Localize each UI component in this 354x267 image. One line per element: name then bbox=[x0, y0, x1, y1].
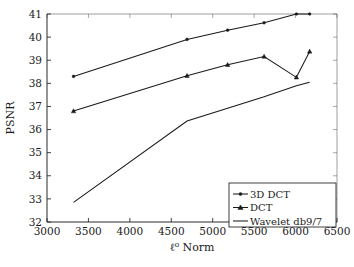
x-tick-label: 4000 bbox=[116, 225, 143, 237]
series-line bbox=[74, 14, 310, 76]
data-point-marker bbox=[308, 13, 311, 16]
y-tick-label: 34 bbox=[29, 169, 43, 181]
data-point-marker bbox=[226, 29, 229, 32]
x-tick-label: 5000 bbox=[199, 225, 226, 237]
y-tick-label: 39 bbox=[29, 54, 42, 66]
data-point-marker bbox=[186, 38, 189, 41]
y-tick-label: 37 bbox=[29, 100, 42, 112]
y-tick-label: 35 bbox=[29, 146, 42, 158]
legend-label: Wavelet db9/7 bbox=[250, 216, 322, 227]
data-point-marker bbox=[72, 75, 75, 78]
y-tick-label: 36 bbox=[29, 123, 43, 135]
legend: 3D DCTDCTWavelet db9/7 bbox=[229, 183, 336, 227]
series-line bbox=[74, 51, 310, 111]
data-point-marker bbox=[294, 75, 298, 79]
y-tick-label: 32 bbox=[29, 216, 42, 228]
legend-label: DCT bbox=[250, 202, 273, 213]
data-point-marker bbox=[263, 21, 266, 24]
legend-marker-dot-icon bbox=[239, 193, 242, 196]
series-dct bbox=[71, 49, 312, 113]
x-tick-label: 4500 bbox=[158, 225, 185, 237]
data-point-marker bbox=[295, 13, 298, 16]
series-3d-dct bbox=[72, 13, 311, 78]
legend-label: 3D DCT bbox=[250, 189, 290, 200]
data-point-marker bbox=[307, 49, 311, 53]
y-tick-label: 40 bbox=[29, 31, 42, 43]
psnr-line-chart: 3000350040004500500055006000650032333435… bbox=[0, 0, 354, 267]
y-tick-label: 33 bbox=[29, 193, 42, 205]
x-tick-label: 3500 bbox=[75, 225, 102, 237]
y-tick-label: 41 bbox=[29, 8, 42, 20]
y-tick-label: 38 bbox=[29, 77, 42, 89]
data-point-marker bbox=[262, 54, 266, 58]
y-axis-title: PSNR bbox=[4, 101, 17, 135]
chart-figure: 3000350040004500500055006000650032333435… bbox=[0, 0, 354, 267]
x-axis-title: ℓ⁰ Norm bbox=[169, 241, 215, 254]
